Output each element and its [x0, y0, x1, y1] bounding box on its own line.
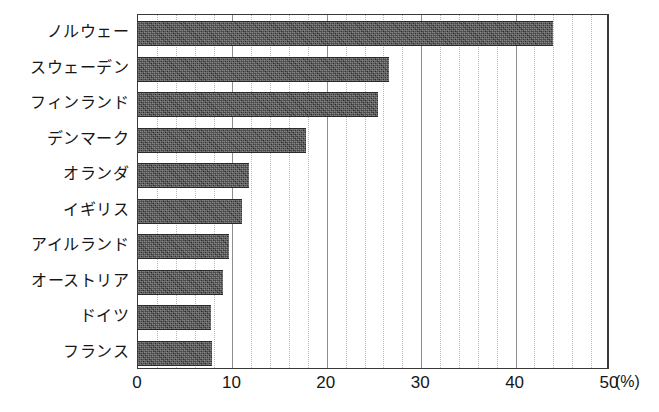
bar-row — [138, 51, 609, 86]
bar-row — [138, 335, 609, 370]
category-label: ノルウェー — [47, 14, 130, 49]
category-axis: ノルウェースウェーデンフィンランドデンマークオランダイギリスアイルランドオースト… — [0, 14, 133, 369]
bar — [138, 305, 211, 330]
bar — [138, 92, 378, 117]
bar — [138, 234, 229, 259]
bar-row — [138, 15, 609, 50]
category-label: デンマーク — [47, 121, 130, 156]
x-tick-label: 40 — [505, 373, 524, 393]
bar-chart: ノルウェースウェーデンフィンランドデンマークオランダイギリスアイルランドオースト… — [0, 0, 659, 412]
category-label: オーストリア — [31, 263, 129, 298]
bar-row — [138, 157, 609, 192]
bar — [138, 21, 553, 46]
bar — [138, 57, 389, 82]
bar — [138, 341, 212, 366]
bar-row — [138, 193, 609, 228]
category-label: イギリス — [63, 192, 129, 227]
category-label: フランス — [63, 334, 129, 369]
category-label: フィンランド — [30, 85, 129, 120]
bar — [138, 199, 242, 224]
category-label: アイルランド — [31, 227, 129, 262]
bar — [138, 270, 223, 295]
plot-area — [137, 14, 609, 369]
category-label: ドイツ — [80, 298, 130, 333]
x-tick-label: 0 — [132, 373, 141, 393]
bar-row — [138, 228, 609, 263]
bar — [138, 128, 306, 153]
bar-row — [138, 299, 609, 334]
bar-row — [138, 264, 609, 299]
category-label: オランダ — [63, 156, 129, 191]
x-tick-label: 20 — [316, 373, 335, 393]
x-tick-label: 30 — [411, 373, 430, 393]
x-tick-label: 10 — [222, 373, 241, 393]
bar — [138, 163, 249, 188]
bar-row — [138, 86, 609, 121]
axis-unit-label: (%) — [615, 373, 640, 391]
category-label: スウェーデン — [30, 50, 129, 85]
value-axis: 01020304050 — [137, 369, 609, 399]
bar-row — [138, 122, 609, 157]
